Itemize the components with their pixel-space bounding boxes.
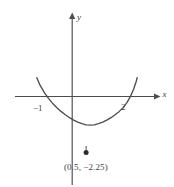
x-intercept-left-text: −1 bbox=[33, 103, 43, 113]
vertex-coordinate-text: (0.5, −2.25) bbox=[64, 162, 108, 172]
x-axis-label: x bbox=[162, 86, 174, 106]
x-intercept-right-glyph: 2 bbox=[121, 100, 133, 114]
x-axis-label-glyph: x bbox=[162, 86, 174, 102]
parabola-figure: y x −1 2 (0.5, −2.25) bbox=[0, 0, 174, 187]
x-intercept-right-text: 2 bbox=[121, 102, 126, 112]
x-axis-arrowhead bbox=[154, 93, 161, 99]
x-intercept-left-label: −1 bbox=[33, 101, 51, 119]
y-axis-label-text: y bbox=[76, 12, 81, 22]
y-axis-arrowhead bbox=[69, 13, 75, 20]
vertex-coordinate-label: (0.5, −2.25) bbox=[64, 159, 142, 179]
x-intercept-left-glyph: −1 bbox=[33, 101, 51, 115]
vertex-coordinate-glyph: (0.5, −2.25) bbox=[64, 159, 142, 175]
x-axis-label-text: x bbox=[162, 89, 167, 99]
y-axis-label-glyph: y bbox=[76, 9, 90, 25]
vertex-point-marker bbox=[84, 150, 89, 155]
x-intercept-right-label: 2 bbox=[121, 100, 133, 118]
y-axis-label: y bbox=[76, 9, 90, 29]
